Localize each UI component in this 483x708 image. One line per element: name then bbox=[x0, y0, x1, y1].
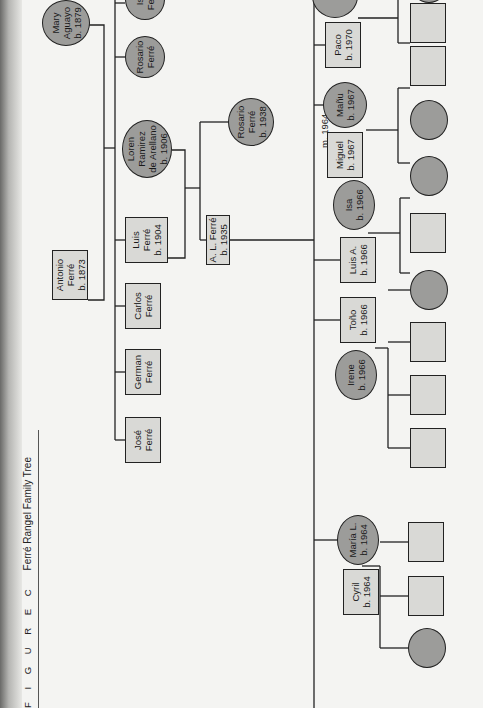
person-irene[interactable]: Irene b. 1966 bbox=[335, 350, 377, 400]
person-paco[interactable]: Paco b. 1970 bbox=[325, 22, 361, 68]
person-jose-ferre[interactable]: José Ferré bbox=[125, 417, 161, 463]
person-german-ferre[interactable]: German Ferré bbox=[125, 349, 161, 395]
grandchild-male[interactable] bbox=[408, 522, 444, 562]
person-miguel[interactable]: Miguel b. 1967 bbox=[327, 132, 363, 178]
grandchild-male[interactable] bbox=[410, 322, 446, 362]
person-antonio-ferre[interactable]: Antonio Ferré b. 1873 bbox=[52, 250, 88, 300]
person-maria-l[interactable]: María L. b. 1964 bbox=[337, 515, 379, 565]
person-tono[interactable]: Toño b. 1966 bbox=[340, 297, 376, 343]
grandchild-female[interactable] bbox=[408, 628, 446, 668]
person-rosario-ferre-1938[interactable]: Rosario Ferré b. 1938 bbox=[228, 98, 274, 146]
grandchild-male[interactable] bbox=[410, 213, 446, 253]
family-tree-canvas: F I G U R E CFerré Rangel Family Tree bbox=[0, 0, 483, 708]
grandchild-female[interactable] bbox=[410, 100, 448, 140]
person-al-ferre[interactable]: A. L. Ferré b. 1935 bbox=[206, 215, 230, 265]
grandchild-male[interactable] bbox=[410, 375, 446, 415]
person-luis-ferre[interactable]: Luis Ferré b. 1904 bbox=[125, 217, 168, 263]
person-loren-ramirez[interactable]: Loren Ramirez de Arellano b. 1906 bbox=[122, 120, 172, 178]
person-carlos-ferre[interactable]: Carlos Ferré bbox=[125, 283, 161, 329]
person-mary-aguayo[interactable]: Mary Aguayo b. 1879 bbox=[42, 0, 90, 46]
grandchild-female[interactable] bbox=[410, 270, 448, 310]
person-rosario-ferre-aunt[interactable]: Rosario Ferré bbox=[125, 36, 165, 78]
person-manu[interactable]: Mañu b. 1967 bbox=[323, 82, 367, 128]
grandchild-male[interactable] bbox=[410, 3, 446, 43]
person-cyril[interactable]: Cyril b. 1964 bbox=[343, 569, 379, 615]
person-luis-a[interactable]: Luis A. b. 1966 bbox=[340, 237, 376, 283]
grandchild-male[interactable] bbox=[410, 428, 446, 468]
grandchild-female[interactable] bbox=[410, 156, 448, 196]
grandchild-male[interactable] bbox=[410, 46, 446, 86]
person-isa[interactable]: Isa b. 1966 bbox=[333, 180, 375, 230]
grandchild-male[interactable] bbox=[408, 576, 444, 616]
